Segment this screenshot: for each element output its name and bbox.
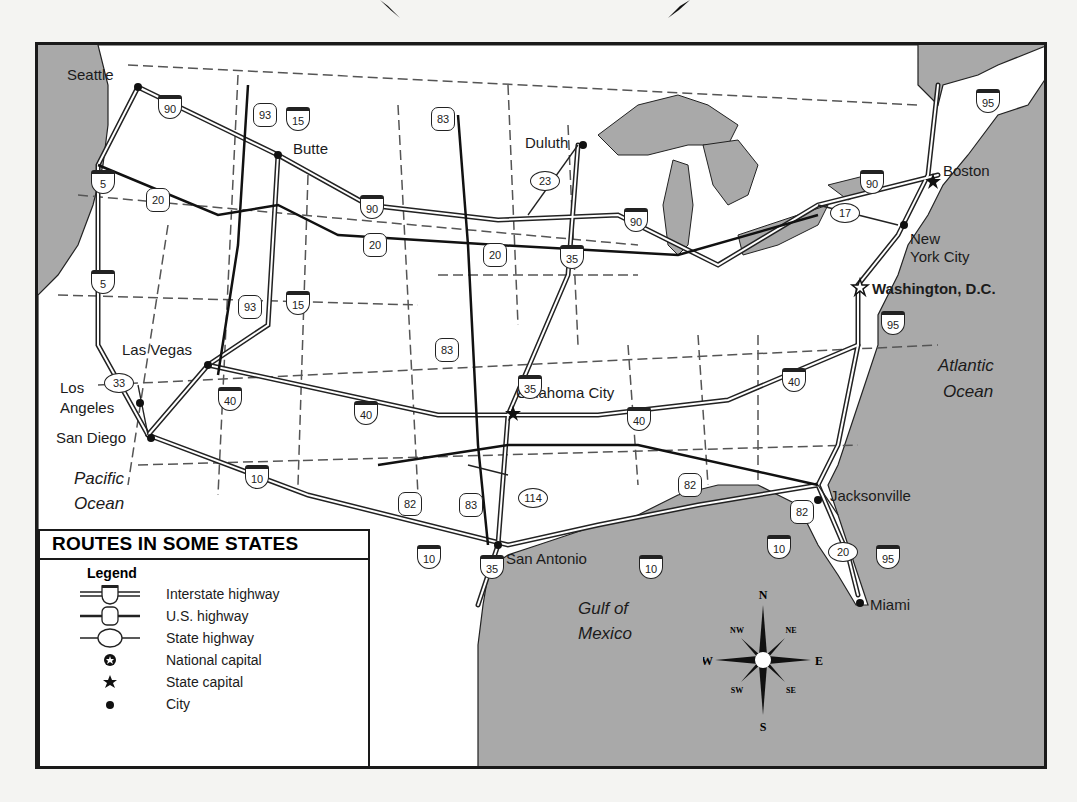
- label-butte: Butte: [293, 141, 328, 158]
- us-highway-shield-icon: 83: [435, 338, 459, 362]
- compass-rose-icon: N S W E NW NE SW SE: [703, 585, 823, 735]
- label-las-vegas: Las Vegas: [122, 342, 192, 359]
- city-dot-icon: [814, 496, 822, 504]
- svg-text:N: N: [759, 588, 768, 602]
- interstate-shield-icon: 40: [627, 407, 651, 431]
- svg-text:W: W: [703, 654, 713, 668]
- city-dot-icon: [579, 141, 587, 149]
- us-highway-shield-icon: 93: [253, 103, 277, 127]
- city-dot-icon: [900, 221, 908, 229]
- interstate-shield-icon: 90: [860, 170, 884, 194]
- us-highway-shield-icon: 20: [483, 243, 507, 267]
- label-los-angeles-line1: Los: [60, 380, 84, 397]
- label-san-diego: San Diego: [56, 430, 126, 447]
- legend-label: City: [166, 696, 190, 712]
- label-seattle: Seattle: [67, 67, 114, 84]
- interstate-shield-icon: 5: [91, 270, 115, 294]
- interstate-shield-icon: 40: [354, 401, 378, 425]
- svg-text:NW: NW: [730, 626, 744, 635]
- us-highway-shield-icon: 82: [398, 492, 422, 516]
- city-dot-icon: [40, 693, 150, 715]
- interstate-shield-icon: 10: [639, 555, 663, 579]
- label-atlantic-line1: Atlantic: [938, 357, 994, 376]
- state-highway-oval-icon: 23: [530, 171, 560, 191]
- legend-label: National capital: [166, 652, 262, 668]
- label-nyc-line2: York City: [910, 249, 969, 266]
- us-highway-shield-icon: 20: [146, 188, 170, 212]
- state-highway-oval-icon: 20: [828, 542, 858, 562]
- interstate-shield-icon: 95: [881, 311, 905, 335]
- city-dot-icon: [204, 361, 212, 369]
- label-boston: Boston: [943, 163, 990, 180]
- label-gulf-line1: Gulf of: [578, 600, 628, 619]
- us-highway-shield-icon: 83: [431, 107, 455, 131]
- legend-label: U.S. highway: [166, 608, 248, 624]
- interstate-shield-icon: 10: [245, 465, 269, 489]
- legend-row-state-highway: State highway: [40, 627, 368, 649]
- decorative-arrows: [0, 0, 1077, 40]
- svg-text:E: E: [815, 654, 823, 668]
- interstate-shield-icon: 90: [158, 95, 182, 119]
- legend-row-interstate: Interstate highway: [40, 583, 368, 605]
- us-highway-shield-icon: 82: [678, 473, 702, 497]
- state-highway-oval-icon: [40, 627, 150, 649]
- legend-row-state-capital: State capital: [40, 671, 368, 693]
- legend-box: ROUTES IN SOME STATES Legend Interstate …: [38, 529, 370, 769]
- label-nyc-line1: New: [910, 231, 940, 248]
- city-dot-icon: [134, 83, 142, 91]
- us-highway-shield-icon: 83: [459, 493, 483, 517]
- legend-row-national-capital: National capital: [40, 649, 368, 671]
- state-highway-oval-icon: 33: [104, 373, 134, 393]
- state-highway-oval-icon: 114: [518, 488, 548, 508]
- label-atlantic-line2: Ocean: [943, 383, 993, 402]
- label-miami: Miami: [870, 597, 910, 614]
- interstate-shield-icon: 95: [876, 545, 900, 569]
- us-routes-map: Seattle Butte Duluth Boston New York Cit…: [35, 42, 1047, 769]
- label-pacific-line1: Pacific: [74, 470, 124, 489]
- legend-label: State capital: [166, 674, 243, 690]
- interstate-shield-icon: 40: [782, 368, 806, 392]
- svg-text:SE: SE: [786, 686, 796, 695]
- city-dot-icon: [274, 151, 282, 159]
- interstate-shield-icon: 10: [767, 535, 791, 559]
- legend-row-us-highway: U.S. highway: [40, 605, 368, 627]
- us-highway-shield-icon: 82: [790, 500, 814, 524]
- label-pacific-line2: Ocean: [74, 495, 124, 514]
- interstate-shield-icon: 40: [218, 387, 242, 411]
- us-highway-shield-icon: [40, 605, 150, 627]
- city-dot-icon: [856, 599, 864, 607]
- label-san-antonio: San Antonio: [506, 551, 587, 568]
- city-dot-icon: [136, 399, 144, 407]
- state-capital-star-icon: [40, 671, 150, 693]
- state-highway-oval-icon: 17: [830, 203, 860, 223]
- interstate-shield-icon: 95: [976, 89, 1000, 113]
- us-highway-shield-icon: 93: [238, 295, 262, 319]
- legend-row-city: City: [40, 693, 368, 715]
- interstate-shield-icon: 90: [360, 195, 384, 219]
- interstate-shield-icon: 15: [286, 107, 310, 131]
- interstate-shield-icon: 15: [286, 291, 310, 315]
- interstate-shield-icon: [40, 583, 150, 605]
- interstate-shield-icon: 5: [91, 170, 115, 194]
- interstate-shield-icon: 35: [480, 555, 504, 579]
- legend-label: State highway: [166, 630, 254, 646]
- us-highway-shield-icon: 20: [363, 233, 387, 257]
- interstate-shield-icon: 10: [417, 545, 441, 569]
- legend-heading: Legend: [87, 565, 368, 581]
- svg-text:S: S: [760, 720, 767, 734]
- compass-rose: N S W E NW NE SW SE: [703, 585, 823, 735]
- label-washington-dc: Washington, D.C.: [872, 281, 996, 298]
- label-gulf-line2: Mexico: [578, 625, 632, 644]
- label-duluth: Duluth: [525, 135, 568, 152]
- label-jacksonville: Jacksonville: [830, 488, 911, 505]
- interstate-shield-icon: 35: [518, 375, 542, 399]
- national-capital-icon: [40, 649, 150, 671]
- map-title: ROUTES IN SOME STATES: [40, 531, 368, 560]
- interstate-shield-icon: 35: [560, 245, 584, 269]
- legend-label: Interstate highway: [166, 586, 280, 602]
- svg-text:NE: NE: [785, 626, 796, 635]
- city-dot-icon: [494, 541, 502, 549]
- interstate-shield-icon: 90: [624, 208, 648, 232]
- label-los-angeles-line2: Angeles: [60, 400, 114, 417]
- city-dot-icon: [147, 434, 155, 442]
